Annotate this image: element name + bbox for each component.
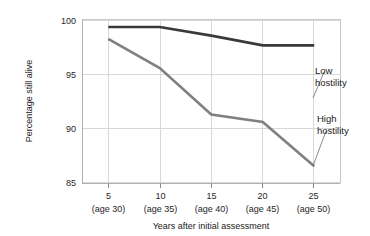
y-tick-label-100: 100 [61,16,76,26]
x-tick-label-15: 15 [206,191,216,201]
x-axis-title: Years after initial assessment [153,221,270,231]
chart-svg: 100 95 90 85 Percentage still alive 5 10… [0,0,370,236]
annotation-low-hostility-line2: hostility [315,77,347,88]
x-tick-sublabel-age35: (age 35) [144,204,178,214]
annotation-high-hostility-line2: hostility [317,125,349,136]
x-tick-label-20: 20 [257,191,267,201]
x-tick-sublabel-age30: (age 30) [92,204,126,214]
y-tick-label-90: 90 [66,124,76,134]
y-tick-label-85: 85 [66,178,76,188]
x-tick-sublabel-age45: (age 45) [246,204,280,214]
line-chart: 100 95 90 85 Percentage still alive 5 10… [0,0,370,236]
x-tick-label-5: 5 [106,191,111,201]
x-tick-label-10: 10 [155,191,165,201]
x-tick-sublabel-age40: (age 40) [195,204,229,214]
x-tick-sublabel-age50: (age 50) [297,204,331,214]
annotation-high-hostility-line1: High [317,113,337,124]
annotation-low-hostility-line1: Low [315,65,333,76]
y-tick-label-95: 95 [66,70,76,80]
x-tick-label-25: 25 [308,191,318,201]
y-axis-title: Percentage still alive [24,60,34,143]
